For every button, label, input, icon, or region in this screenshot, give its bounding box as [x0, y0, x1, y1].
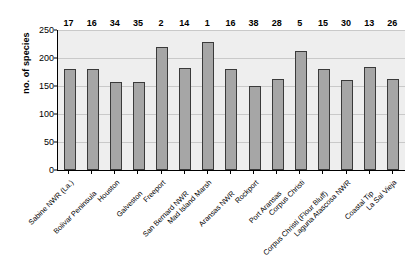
x-axis-tick-marks	[57, 171, 404, 175]
x-axis-tick-mark	[68, 171, 69, 174]
x-axis-tick-slot	[288, 171, 311, 175]
x-axis-tick-slot	[57, 171, 80, 175]
bar-slot	[197, 30, 220, 170]
bar-value-label: 26	[381, 18, 404, 28]
bar-slot	[104, 30, 127, 170]
x-axis-label-slot: Bolivar Peninsula	[80, 176, 103, 265]
bar	[202, 42, 214, 170]
bar-slot	[151, 30, 174, 170]
bar	[87, 69, 99, 170]
bar-value-label: 34	[103, 18, 126, 28]
x-axis-tick-slot	[311, 171, 334, 175]
bar-series	[58, 30, 405, 170]
x-axis-tick-slot	[335, 171, 358, 175]
bar-value-label: 38	[242, 18, 265, 28]
y-axis-tick-label: 100	[39, 109, 54, 119]
bar	[364, 67, 376, 170]
x-axis-tick-mark	[346, 171, 347, 174]
x-axis-label-slot: Aransas NWR	[219, 176, 242, 265]
x-axis-tick-mark	[276, 171, 277, 174]
x-axis-tick-mark	[114, 171, 115, 174]
x-axis-tick-slot	[126, 171, 149, 175]
x-axis-tick-slot	[358, 171, 381, 175]
bar	[387, 79, 399, 170]
bar	[318, 69, 330, 170]
x-axis-tick-mark	[207, 171, 208, 174]
x-axis-tick-slot	[265, 171, 288, 175]
bar-value-label: 16	[80, 18, 103, 28]
x-axis-tick-slot	[103, 171, 126, 175]
x-axis-tick-mark	[230, 171, 231, 174]
bar	[272, 79, 284, 170]
x-axis-tick-mark	[369, 171, 370, 174]
bar-slot	[359, 30, 382, 170]
bar-slot	[382, 30, 405, 170]
bar-slot	[174, 30, 197, 170]
x-axis-tick-mark	[299, 171, 300, 174]
x-axis-tick-slot	[173, 171, 196, 175]
bar-slot	[312, 30, 335, 170]
x-axis-label-slot: Coastal Tip	[358, 176, 381, 265]
bar-value-label: 14	[173, 18, 196, 28]
x-axis-label-slot: Houston	[103, 176, 126, 265]
bar-value-label: 35	[126, 18, 149, 28]
bar-value-label: 17	[57, 18, 80, 28]
bar-slot	[289, 30, 312, 170]
bar-value-label: 13	[358, 18, 381, 28]
bar	[156, 47, 168, 170]
bar-value-label: 15	[311, 18, 334, 28]
x-axis-label-slot: Galveston	[126, 176, 149, 265]
bar-slot	[266, 30, 289, 170]
bar-value-label: 1	[196, 18, 219, 28]
x-axis-tick-slot	[219, 171, 242, 175]
bar-slot	[58, 30, 81, 170]
bar-value-labels-row: 171634352141163828515301326	[57, 12, 404, 28]
x-axis-tick-mark	[91, 171, 92, 174]
x-axis-label-slot: Laguna Atascosa NWR	[335, 176, 358, 265]
bar-value-label: 16	[219, 18, 242, 28]
x-axis-tick-mark	[161, 171, 162, 174]
bar	[133, 82, 145, 170]
x-axis-tick-mark	[322, 171, 323, 174]
y-axis-tick-label: 150	[39, 81, 54, 91]
x-axis-category-labels: Sabine NWR (La.)Bolivar PeninsulaHouston…	[57, 176, 404, 265]
bar-value-label: 30	[335, 18, 358, 28]
bar	[179, 68, 191, 170]
bar-slot	[81, 30, 104, 170]
x-axis-tick-mark	[184, 171, 185, 174]
plot-area	[57, 30, 405, 171]
bar	[341, 80, 353, 170]
bar-slot	[220, 30, 243, 170]
y-axis-tick-label: 50	[44, 137, 54, 147]
x-axis-tick-slot	[242, 171, 265, 175]
bar	[249, 86, 261, 170]
bar-value-label: 2	[150, 18, 173, 28]
x-axis-tick-slot	[80, 171, 103, 175]
x-axis-tick-slot	[381, 171, 404, 175]
x-axis-tick-mark	[253, 171, 254, 174]
x-axis-tick-mark	[137, 171, 138, 174]
bar-slot	[336, 30, 359, 170]
bar-value-label: 28	[265, 18, 288, 28]
x-axis-label-slot: La Sal Vieja	[381, 176, 404, 265]
bar	[225, 69, 237, 170]
x-axis-tick-slot	[150, 171, 173, 175]
y-axis-tick-label: 200	[39, 53, 54, 63]
x-axis-tick-slot	[196, 171, 219, 175]
bar-chart: no. of species 050100150200250 171634352…	[0, 0, 411, 265]
bar-slot	[127, 30, 150, 170]
x-axis-tick-mark	[392, 171, 393, 174]
bar	[64, 69, 76, 170]
bar-value-label: 5	[288, 18, 311, 28]
bar	[295, 51, 307, 170]
y-axis-tick-label: 250	[39, 25, 54, 35]
bar-slot	[243, 30, 266, 170]
bar	[110, 82, 122, 170]
